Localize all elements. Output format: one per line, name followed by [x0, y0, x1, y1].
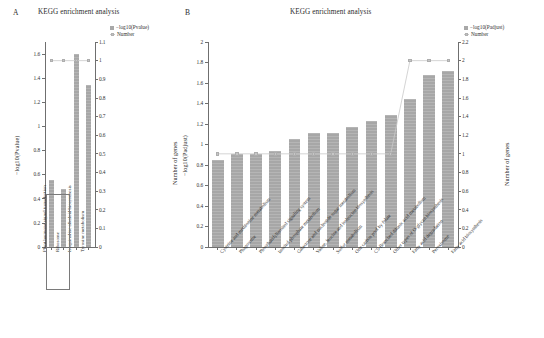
bar — [86, 85, 91, 247]
panel-b: B KEGG enrichment analysis −log10(Padjus… — [180, 0, 544, 338]
axis-tick-label: 0 — [23, 244, 40, 250]
axis-tick — [205, 247, 208, 248]
axis-tick — [275, 248, 276, 251]
axis-tick — [313, 248, 314, 251]
panel-a-right-axis — [95, 42, 96, 247]
axis-tick — [205, 103, 208, 104]
bar — [442, 71, 454, 247]
axis-tick — [458, 60, 461, 61]
axis-tick — [95, 60, 98, 61]
number-marker — [235, 152, 238, 155]
axis-tick-label: 1.1 — [99, 39, 105, 45]
axis-tick — [42, 126, 45, 127]
x-axis-label: Fatty acid biosynthesis — [450, 218, 484, 255]
axis-tick-label: 0 — [186, 244, 203, 250]
axis-tick — [458, 135, 461, 136]
axis-tick-label: 0.2 — [186, 223, 203, 229]
number-marker — [254, 152, 257, 155]
axis-tick — [458, 172, 461, 173]
axis-tick — [458, 79, 461, 80]
axis-tick-label: 1 — [186, 141, 203, 147]
axis-tick-label: 1.6 — [23, 51, 40, 57]
axis-tick — [95, 116, 98, 117]
axis-tick — [458, 209, 461, 210]
axis-tick-label: 0.2 — [99, 207, 105, 213]
panel-a-plot: 00.20.40.60.811.21.41.6 00.10.20.30.40.5… — [0, 0, 180, 338]
axis-tick — [95, 42, 98, 43]
number-marker — [389, 152, 392, 155]
axis-tick-label: 2.2 — [462, 39, 468, 45]
axis-tick — [458, 42, 461, 43]
number-marker — [312, 152, 315, 155]
axis-tick — [352, 248, 353, 251]
axis-tick — [95, 209, 98, 210]
axis-tick-label: 0.6 — [99, 132, 105, 138]
axis-tick-label: 0.6 — [462, 188, 468, 194]
number-marker — [62, 59, 65, 62]
axis-tick-label: 0.2 — [23, 220, 40, 226]
axis-tick-label: 0.3 — [99, 188, 105, 194]
axis-tick — [95, 247, 98, 248]
number-marker — [293, 152, 296, 155]
panel-b-right-axis — [458, 42, 459, 247]
axis-tick — [95, 98, 98, 99]
axis-tick-label: 1.8 — [186, 59, 203, 65]
axis-tick-label: 1 — [23, 123, 40, 129]
axis-tick — [205, 83, 208, 84]
axis-tick — [429, 248, 430, 251]
axis-tick — [205, 62, 208, 63]
axis-tick-label: 0 — [99, 244, 102, 250]
number-marker — [75, 59, 78, 62]
axis-tick — [333, 248, 334, 251]
axis-tick — [371, 248, 372, 251]
axis-tick-label: 1.6 — [462, 95, 468, 101]
axis-tick-label: 1.4 — [462, 113, 468, 119]
axis-tick — [205, 42, 208, 43]
axis-tick — [448, 248, 449, 251]
axis-tick — [205, 206, 208, 207]
panel-b-left-axis — [208, 42, 209, 247]
number-marker — [50, 59, 53, 62]
number-marker — [331, 152, 334, 155]
axis-tick-label: 0.8 — [186, 162, 203, 168]
axis-tick-label: 1.8 — [462, 76, 468, 82]
axis-tick-label: 0.9 — [99, 76, 105, 82]
axis-tick — [205, 165, 208, 166]
axis-tick — [458, 116, 461, 117]
axis-tick — [390, 248, 391, 251]
axis-tick — [256, 248, 257, 251]
axis-tick — [95, 135, 98, 136]
axis-tick — [458, 153, 461, 154]
axis-tick — [95, 191, 98, 192]
x-axis-label: Tyrosine metabolism — [80, 211, 86, 252]
axis-tick-label: 2 — [462, 57, 465, 63]
axis-tick — [205, 144, 208, 145]
axis-tick — [95, 172, 98, 173]
axis-tick-label: 1.4 — [23, 75, 40, 81]
axis-tick-label: 0.8 — [23, 147, 40, 153]
axis-tick — [458, 228, 461, 229]
panel-a: A KEGG enrichment analysis −log10(Pvalue… — [0, 0, 180, 338]
axis-tick — [205, 185, 208, 186]
axis-tick — [42, 54, 45, 55]
panel-a-highlight-box — [46, 194, 70, 290]
axis-tick-label: 0.8 — [462, 169, 468, 175]
axis-tick-label: 0.4 — [186, 203, 203, 209]
axis-tick — [76, 248, 77, 251]
axis-tick-label: 1.2 — [186, 121, 203, 127]
axis-tick — [42, 102, 45, 103]
bar — [250, 154, 262, 247]
axis-tick — [42, 174, 45, 175]
axis-tick — [205, 124, 208, 125]
kegg-enrichment-figure: A KEGG enrichment analysis −log10(Pvalue… — [0, 0, 544, 338]
number-marker — [274, 152, 277, 155]
axis-tick — [95, 228, 98, 229]
axis-tick-label: 0.5 — [99, 151, 105, 157]
bar — [74, 54, 79, 247]
axis-tick — [42, 78, 45, 79]
number-marker — [216, 152, 219, 155]
axis-tick — [458, 191, 461, 192]
axis-tick-label: 0.7 — [99, 113, 105, 119]
axis-tick — [88, 248, 89, 251]
axis-tick — [294, 248, 295, 251]
